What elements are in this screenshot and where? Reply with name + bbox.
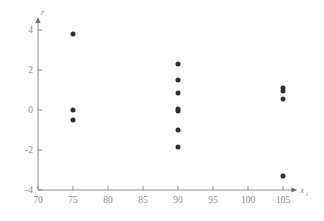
x-axis-label-subscript: 1 <box>305 191 308 197</box>
x-axis-arrow-icon <box>291 187 297 192</box>
data-point <box>176 145 181 150</box>
y-tick-label: 0 <box>28 105 33 115</box>
x-tick-label: 90 <box>173 195 183 205</box>
ticks-group: 707580859095100105-4-2024 <box>25 25 290 205</box>
data-point <box>281 89 286 94</box>
data-point <box>176 128 181 133</box>
data-points-group <box>71 32 286 179</box>
data-point <box>281 174 286 179</box>
data-point <box>176 78 181 83</box>
x-tick-label: 95 <box>208 195 218 205</box>
x-tick-label: 70 <box>33 195 43 205</box>
x-tick-label: 105 <box>276 195 291 205</box>
y-axis-label: r <box>41 8 45 17</box>
x-tick-label: 100 <box>241 195 256 205</box>
data-point <box>71 118 76 123</box>
residual-scatter-figure: 707580859095100105-4-2024 rx1 <box>0 0 324 221</box>
data-point <box>176 62 181 67</box>
data-point <box>71 108 76 113</box>
data-point <box>281 97 286 102</box>
data-point <box>71 32 76 37</box>
y-tick-label: 2 <box>28 65 33 75</box>
x-tick-label: 75 <box>68 195 78 205</box>
data-point <box>176 109 181 114</box>
x-tick-label: 85 <box>138 195 148 205</box>
x-axis-label: x <box>299 186 304 195</box>
y-tick-label: -4 <box>25 185 33 195</box>
y-tick-label: -2 <box>25 145 33 155</box>
scatter-plot-canvas: 707580859095100105-4-2024 rx1 <box>0 0 324 221</box>
axes-group <box>35 17 297 193</box>
y-tick-label: 4 <box>28 25 33 35</box>
y-axis-arrow-icon <box>35 17 40 23</box>
axis-labels-group: rx1 <box>41 8 308 197</box>
data-point <box>176 91 181 96</box>
x-tick-label: 80 <box>103 195 113 205</box>
